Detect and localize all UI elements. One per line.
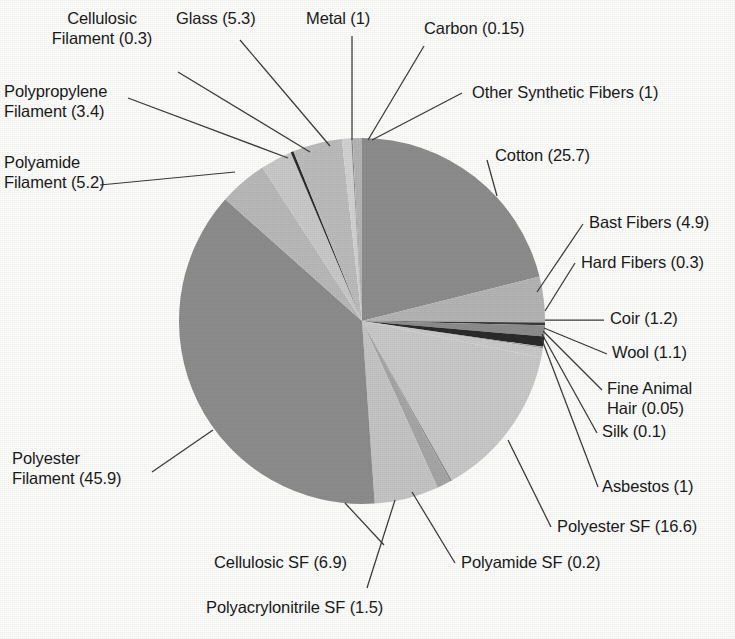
label-polypropylene-filament: Polypropylene Filament (3.4): [4, 81, 107, 121]
pie-slice-group: [179, 138, 545, 504]
label-silk: Silk (0.1): [602, 421, 666, 441]
label-coir: Coir (1.2): [610, 308, 678, 328]
label-polyamide-sf: Polyamide SF (0.2): [461, 552, 600, 572]
label-polyester-sf: Polyester SF (16.6): [557, 516, 697, 536]
label-metal: Metal (1): [306, 8, 370, 28]
label-polyamide-filament: Polyamide Filament (5.2): [4, 152, 104, 192]
label-hard-fibers: Hard Fibers (0.3): [581, 252, 704, 272]
label-cotton: Cotton (25.7): [495, 145, 590, 165]
label-wool: Wool (1.1): [612, 342, 687, 362]
label-other-synthetic-fibers: Other Synthetic Fibers (1): [472, 82, 658, 102]
label-carbon: Carbon (0.15): [424, 18, 525, 38]
label-cellulosic-sf: Cellulosic SF (6.9): [214, 552, 347, 572]
label-glass: Glass (5.3): [176, 8, 256, 28]
label-cellulosic-filament: Cellulosic Filament (0.3): [28, 8, 176, 48]
label-fine-animal-hair: Fine Animal Hair (0.05): [607, 378, 692, 418]
pie-chart-figure: Cellulosic Filament (0.3) Glass (5.3) Me…: [0, 0, 735, 639]
label-polyester-filament: Polyester Filament (45.9): [12, 448, 121, 488]
label-asbestos: Asbestos (1): [602, 476, 693, 496]
label-polyacrylonitrile-sf: Polyacrylonitrile SF (1.5): [206, 597, 383, 617]
label-bast-fibers: Bast Fibers (4.9): [589, 212, 709, 232]
